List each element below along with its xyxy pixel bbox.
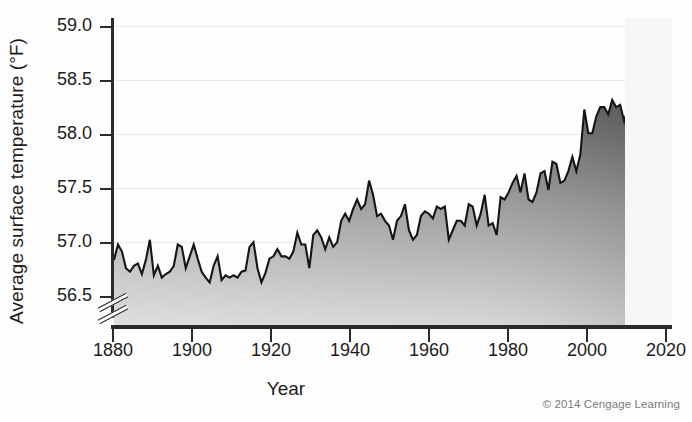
y-tick-label-57-0: 57.0: [36, 231, 92, 252]
x-tick-label-1920: 1920: [236, 340, 306, 361]
y-tick-mark-56-5: [100, 296, 111, 298]
y-tick-label-57-5: 57.5: [36, 177, 92, 198]
y-axis-line: [111, 18, 114, 318]
y-tick-label-59-0: 59.0: [36, 15, 92, 36]
x-tick-label-1900: 1900: [157, 340, 227, 361]
x-tick-label-2020: 2020: [631, 340, 692, 361]
x-tick-label-1940: 1940: [315, 340, 385, 361]
y-tick-mark-57-5: [100, 188, 111, 190]
y-tick-mark-59-0: [100, 26, 111, 28]
x-tick-label-1880: 1880: [78, 340, 148, 361]
y-axis-title-text: Average surface temperature (°F): [6, 38, 28, 324]
x-tick-label-1960: 1960: [394, 340, 464, 361]
y-tick-label-58-5: 58.5: [36, 69, 92, 90]
y-tick-mark-58-5: [100, 80, 111, 82]
y-axis-title: Average surface temperature (°F): [2, 16, 32, 346]
x-tick-label-1980: 1980: [473, 340, 543, 361]
axis-break-icon: [99, 296, 129, 322]
temperature-area-series: [114, 18, 625, 325]
x-tick-label-2000: 2000: [552, 340, 622, 361]
y-tick-mark-58-0: [100, 134, 111, 136]
x-axis-title-text: Year: [267, 378, 305, 399]
copyright-credit: © 2014 Cengage Learning: [543, 398, 680, 410]
y-tick-mark-57-0: [100, 242, 111, 244]
temperature-chart-figure: 59.0 58.5 58.0 57.5 57.0 56.5 1880 1900 …: [0, 0, 692, 422]
y-tick-label-56-5: 56.5: [36, 285, 92, 306]
y-tick-label-58-0: 58.0: [36, 123, 92, 144]
plot-area: [114, 18, 625, 325]
x-axis-title: Year: [0, 378, 692, 400]
plot-background-right: [625, 18, 672, 325]
